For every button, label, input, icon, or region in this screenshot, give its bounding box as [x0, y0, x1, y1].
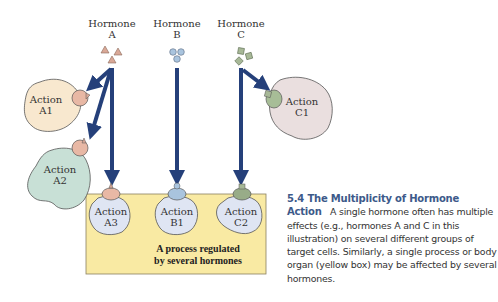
action-c1-line2: C1: [282, 107, 322, 118]
hormone-c-squares-icon: [235, 48, 253, 66]
receptor-a1: [72, 90, 88, 106]
hormone-b-name: Hormone: [153, 18, 201, 29]
process-box-line2: by several hormones: [118, 255, 278, 267]
action-a1-line2: A1: [26, 105, 66, 116]
action-c2-line2: C2: [221, 217, 261, 228]
action-a3-line1: Action: [91, 206, 131, 217]
process-box-line1: A process regulated: [118, 243, 278, 255]
process-box-label: A process regulated by several hormones: [118, 243, 278, 267]
action-a1-line1: Action: [26, 94, 66, 105]
caption-body: A single hormone often has multiple effe…: [287, 206, 497, 283]
receptor-a3: [102, 188, 120, 200]
receptor-c2: [233, 188, 251, 200]
action-c1-line1: Action: [282, 96, 322, 107]
hormone-c-label: Hormone C: [217, 18, 265, 40]
action-a3-line2: A3: [91, 217, 131, 228]
action-a2-line2: A2: [40, 175, 80, 186]
action-c1-label: Action C1: [282, 96, 322, 118]
hormone-a-id: A: [88, 29, 136, 40]
action-b1-line1: Action: [157, 206, 197, 217]
hormone-a-label: Hormone A: [88, 18, 136, 40]
hormone-b-label: Hormone B: [153, 18, 201, 40]
figure-caption: 5.4 The Multiplicity of Hormone Action A…: [287, 192, 498, 285]
action-c2-label: Action C2: [221, 206, 261, 228]
action-b1-line2: B1: [157, 217, 197, 228]
hormone-b-circles-icon: [170, 49, 185, 63]
action-c2-line1: Action: [221, 206, 261, 217]
arrows: [92, 68, 264, 178]
action-a3-label: Action A3: [91, 206, 131, 228]
action-a1-label: Action A1: [26, 94, 66, 116]
receptor-b1: [168, 188, 186, 200]
hormone-a-triangles-icon: [101, 46, 122, 63]
hormone-a-name: Hormone: [88, 18, 136, 29]
hormone-c-id: C: [217, 29, 265, 40]
action-a2-label: Action A2: [40, 164, 80, 186]
action-b1-label: Action B1: [157, 206, 197, 228]
hormone-b-id: B: [153, 29, 201, 40]
action-a2-line1: Action: [40, 164, 80, 175]
hormone-c-name: Hormone: [217, 18, 265, 29]
